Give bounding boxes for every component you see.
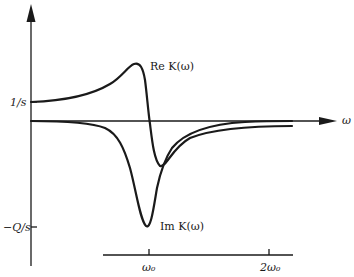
real-part-label: Re K(ω) <box>150 60 194 73</box>
x-axis-label-omega: ω <box>342 114 351 127</box>
response-function-diagram: 1/s −Q/s ω Re K(ω) Im K(ω) ω₀ 2ω₀ <box>0 0 354 277</box>
frequency-scale <box>103 249 293 255</box>
real-part-curve <box>31 64 292 167</box>
freq-tick-label-2omega0: 2ω₀ <box>259 261 281 274</box>
x-axis-arrow-icon <box>319 117 337 125</box>
y-axis-arrow-icon <box>27 4 36 22</box>
y-tick-label-1-over-s: 1/s <box>10 96 27 109</box>
imaginary-part-curve <box>31 121 292 226</box>
freq-tick-label-omega0: ω₀ <box>142 261 156 274</box>
y-tick-label-minus-q-over-s: −Q/s <box>3 221 31 234</box>
imaginary-part-label: Im K(ω) <box>160 220 204 233</box>
